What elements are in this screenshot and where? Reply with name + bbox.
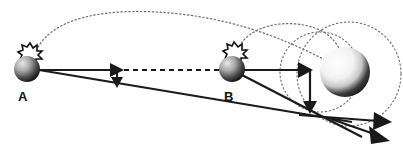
small-body-a-sphere <box>14 56 40 82</box>
slingshot-diagram: A B <box>0 0 403 149</box>
large-body-sphere <box>320 47 370 97</box>
label-point-b: B <box>224 89 233 104</box>
small-body-b-sphere <box>219 56 245 82</box>
label-point-a: A <box>18 89 28 104</box>
large-body-planet <box>320 47 370 97</box>
diagram-canvas: A B <box>0 0 403 149</box>
